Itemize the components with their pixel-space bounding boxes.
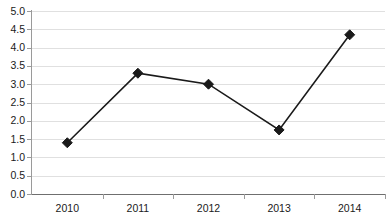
data-point-2012: [204, 79, 214, 89]
data-series-layer: [0, 0, 389, 219]
line-chart: 5.0 4.5 4.0 3.5 3.0 2.5 2.0 1.5 1.0 0.5 …: [0, 0, 389, 219]
series-markers: [62, 30, 354, 148]
